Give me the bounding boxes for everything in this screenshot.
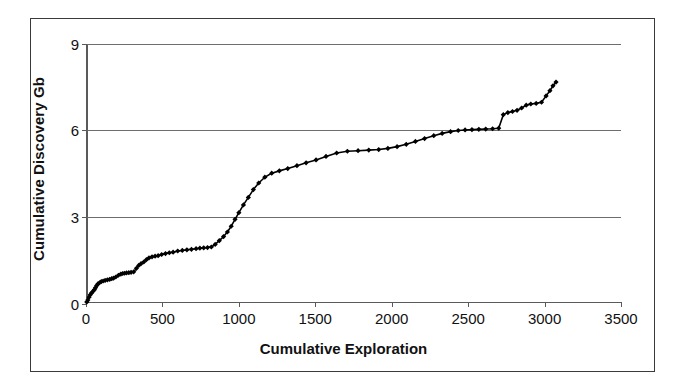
data-point (277, 168, 282, 173)
data-point (323, 153, 328, 158)
x-tick-label-0: 0 (82, 310, 90, 327)
x-tick-label-2000: 2000 (375, 310, 408, 327)
x-tick-mark-3500 (621, 302, 622, 307)
chart-figure: Cumulative Discovery Gb Cumulative Explo… (30, 18, 655, 372)
data-point (413, 138, 418, 143)
data-point (510, 108, 515, 113)
data-point (490, 126, 495, 131)
data-point (313, 157, 318, 162)
x-tick-label-1000: 1000 (222, 310, 255, 327)
data-point (501, 112, 506, 117)
data-point (345, 148, 350, 153)
data-point (189, 246, 194, 251)
data-point (528, 101, 533, 106)
y-tick-label-9: 9 (71, 35, 79, 52)
data-point (456, 127, 461, 132)
x-tick-label-2500: 2500 (451, 310, 484, 327)
data-point (440, 130, 445, 135)
data-point (171, 249, 176, 254)
data-point (448, 129, 453, 134)
data-point (285, 165, 290, 170)
data-point (534, 100, 539, 105)
y-axis-title: Cumulative Discovery Gb (25, 19, 51, 319)
plot-area: 0369 0500100015002000250030003500 (86, 44, 621, 304)
x-tick-label-3500: 3500 (604, 310, 637, 327)
data-point (163, 251, 168, 256)
data-point (184, 247, 189, 252)
data-point (462, 127, 467, 132)
data-point (334, 150, 339, 155)
x-tick-label-3000: 3000 (528, 310, 561, 327)
data-point (404, 141, 409, 146)
data-point (476, 126, 481, 131)
data-point (431, 133, 436, 138)
data-point (422, 135, 427, 140)
data-series-line (86, 44, 621, 304)
data-point (514, 107, 519, 112)
data-point (505, 110, 510, 115)
data-point (355, 148, 360, 153)
y-tick-label-0: 0 (71, 295, 79, 312)
data-point (496, 125, 501, 130)
data-point (304, 160, 309, 165)
y-tick-label-3: 3 (71, 208, 79, 225)
data-point (180, 247, 185, 252)
data-point (175, 248, 180, 253)
x-tick-label-1500: 1500 (299, 310, 332, 327)
y-tick-label-6: 6 (71, 122, 79, 139)
data-point (394, 144, 399, 149)
data-point (366, 147, 371, 152)
data-point (385, 145, 390, 150)
x-axis-title: Cumulative Exploration (31, 340, 656, 357)
data-point (376, 146, 381, 151)
x-tick-label-500: 500 (150, 310, 175, 327)
data-point (294, 163, 299, 168)
data-point (483, 126, 488, 131)
data-point (469, 127, 474, 132)
